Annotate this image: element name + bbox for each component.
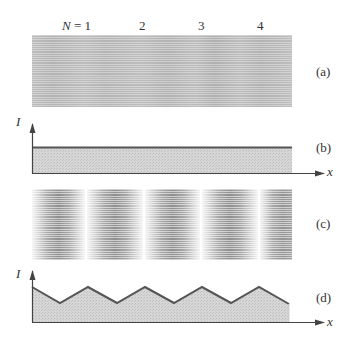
- fringe-pattern-banded: [32, 189, 292, 260]
- panel-label-d: (d): [316, 290, 331, 306]
- panel-label-c: (c): [316, 216, 330, 232]
- plot-b-y-label: I: [16, 114, 20, 130]
- fringe-band-2: [87, 189, 143, 260]
- intensity-plots: [0, 0, 352, 343]
- plot-b-fill: [33, 148, 292, 173]
- fringe-band-5: [260, 189, 292, 260]
- panel-label-b: (b): [316, 140, 331, 156]
- plot-d: [32, 271, 324, 323]
- plot-b-x-label: x: [327, 164, 333, 180]
- plot-d-y-label: I: [16, 266, 20, 282]
- fringe-band-1: [32, 189, 85, 260]
- plot-b: [32, 124, 324, 174]
- fringe-band-4: [202, 189, 258, 260]
- fringe-band-3: [145, 189, 200, 260]
- plot-d-x-label: x: [327, 314, 333, 330]
